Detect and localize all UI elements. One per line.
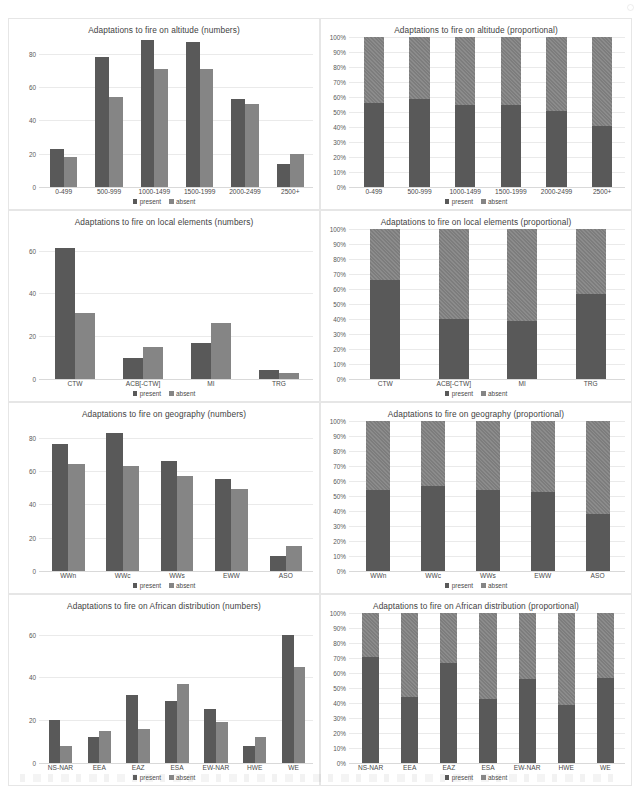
- gridline: [349, 379, 625, 380]
- y-axis-tick-label: 20: [29, 534, 36, 541]
- bar-group: [41, 421, 95, 571]
- bar-group: [268, 37, 313, 187]
- stacked-bar: [362, 613, 379, 763]
- x-axis-tick-label: WE: [274, 764, 313, 771]
- bar-group: [351, 613, 390, 763]
- gridline: [349, 763, 625, 764]
- legend-label-absent: absent: [176, 198, 195, 205]
- plot-canvas: [349, 229, 627, 379]
- bar-segment-absent: [531, 421, 555, 491]
- bar-group-container: [349, 229, 627, 379]
- gridline: [39, 763, 313, 764]
- stacked-bar: [370, 229, 400, 379]
- x-axis-tick-label: ACB[-CTW]: [420, 380, 489, 387]
- x-axis-tick-label: WWn: [41, 572, 95, 579]
- legend-item-present: present: [445, 582, 473, 589]
- legend-label-present: present: [452, 198, 473, 205]
- bar-group: [222, 37, 267, 187]
- y-axis-tick-label: 70%: [333, 79, 346, 86]
- bar-absent: [177, 476, 193, 571]
- legend-label-absent: absent: [176, 582, 195, 589]
- stacked-bar: [592, 37, 612, 187]
- bar-segment-present: [364, 103, 384, 187]
- x-axis-tick-label: 1500-1999: [177, 188, 222, 195]
- y-axis-tick-label: 20%: [333, 154, 346, 161]
- chart-panel: Adaptations to fire on African distribut…: [320, 594, 632, 786]
- y-axis-tick-label: 60: [29, 84, 36, 91]
- y-axis-tick-label: 50%: [333, 685, 346, 692]
- y-axis-tick-label: 0: [32, 568, 36, 575]
- y-axis: 0204060: [13, 613, 39, 763]
- y-axis-tick-label: 40%: [333, 700, 346, 707]
- y-axis-tick-label: 80: [29, 50, 36, 57]
- bar-present: [123, 358, 143, 379]
- bar-present: [282, 635, 294, 763]
- stacked-bar: [558, 613, 575, 763]
- bar-group: [177, 229, 245, 379]
- legend-item-absent: absent: [169, 198, 195, 205]
- bar-present: [49, 720, 61, 763]
- chart-title: Adaptations to fire on geography (number…: [13, 410, 315, 419]
- x-axis-labels: NS-NAREEAEAZESAEW-NARHWEWE: [349, 764, 627, 771]
- legend-label-present: present: [452, 582, 473, 589]
- x-axis-tick-label: 2000-2499: [222, 188, 267, 195]
- bar-group: [429, 613, 468, 763]
- x-axis-tick-label: 500-999: [86, 188, 131, 195]
- bar-present: [141, 40, 155, 187]
- bar-present: [243, 746, 255, 763]
- bar-segment-present: [362, 657, 379, 763]
- plot-area: 0%10%20%30%40%50%60%70%80%90%100%: [325, 229, 627, 379]
- x-axis-tick-label: 2500+: [579, 188, 625, 195]
- y-axis-tick-label: 10%: [333, 169, 346, 176]
- bar-group: [158, 613, 197, 763]
- bar-absent: [68, 464, 84, 571]
- legend-label-present: present: [140, 582, 161, 589]
- stacked-bar: [576, 229, 606, 379]
- bar-absent: [245, 104, 259, 187]
- y-axis-tick-label: 30%: [333, 523, 346, 530]
- legend-label-present: present: [140, 390, 161, 397]
- plot-canvas: [39, 37, 315, 187]
- y-axis-tick-label: 50%: [333, 301, 346, 308]
- bar-group: [132, 37, 177, 187]
- y-axis-tick-label: 10%: [333, 745, 346, 752]
- legend-swatch-absent-icon: [169, 391, 174, 396]
- x-axis-tick-label: 1000-1499: [442, 188, 488, 195]
- x-axis: 0-499500-9991000-14991500-19992000-24992…: [13, 188, 315, 195]
- x-axis-labels: 0-499500-9991000-14991500-19992000-24992…: [39, 188, 315, 195]
- chart-title: Adaptations to fire on African distribut…: [13, 602, 315, 611]
- stacked-bar: [586, 421, 610, 571]
- legend-item-absent: absent: [169, 390, 195, 397]
- y-axis-tick-label: 40: [29, 501, 36, 508]
- chart-legend: presentabsent: [13, 582, 315, 589]
- x-axis-tick-label: 1000-1499: [132, 188, 177, 195]
- y-axis-tick-label: 40%: [333, 316, 346, 323]
- bar-absent: [154, 69, 168, 187]
- legend-item-present: present: [445, 198, 473, 205]
- bar-segment-present: [507, 321, 537, 379]
- bar-segment-present: [366, 490, 390, 571]
- x-axis-tick-label: HWE: [547, 764, 586, 771]
- bar-segment-present: [531, 492, 555, 571]
- bar-group: [461, 421, 516, 571]
- bar-group: [468, 613, 507, 763]
- bar-group: [547, 613, 586, 763]
- x-axis-tick-label: EEA: [390, 764, 429, 771]
- x-axis-labels: WWnWWcWWsEWWASO: [39, 572, 315, 579]
- y-axis-tick-label: 40%: [333, 124, 346, 131]
- chart-legend: presentabsent: [13, 198, 315, 205]
- bar-group-container: [39, 229, 315, 379]
- bar-segment-absent: [507, 229, 537, 320]
- x-axis: 0-499500-9991000-14991500-19992000-24992…: [325, 188, 627, 195]
- y-axis-tick-label: 80%: [333, 64, 346, 71]
- legend-swatch-present-icon: [445, 583, 450, 588]
- plot-canvas: [39, 421, 315, 571]
- stacked-bar: [546, 37, 566, 187]
- y-axis: 0204060: [13, 229, 39, 379]
- legend-item-present: present: [133, 390, 161, 397]
- bar-group-container: [39, 421, 315, 571]
- legend-label-present: present: [452, 390, 473, 397]
- bar-present: [191, 343, 211, 379]
- chart-title: Adaptations to fire on local elements (n…: [13, 218, 315, 227]
- bar-segment-absent: [576, 229, 606, 293]
